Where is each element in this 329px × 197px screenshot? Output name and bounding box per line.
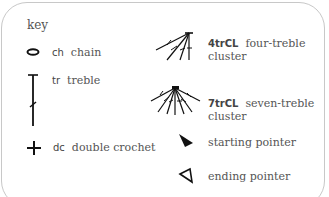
key-title: key <box>27 18 48 32</box>
four-treble-cluster-label: 4trCL four-treble cluster <box>208 37 305 63</box>
treble-label: tr treble <box>52 74 100 87</box>
seven-treble-cluster-label: 7trCL seven-treble cluster <box>208 97 314 123</box>
chain-label: ch chain <box>52 46 101 59</box>
starting-pointer-label: starting pointer <box>208 136 296 149</box>
seven-treble-cluster-icon <box>150 86 202 116</box>
ending-pointer-label: ending pointer <box>208 170 290 183</box>
double-crochet-icon <box>27 141 41 155</box>
starting-pointer-icon <box>178 133 194 149</box>
chain-icon <box>26 48 40 56</box>
double-crochet-label: dc double crochet <box>53 141 155 154</box>
treble-icon <box>27 74 39 128</box>
four-treble-cluster-icon <box>155 32 197 62</box>
ending-pointer-icon <box>178 168 194 184</box>
